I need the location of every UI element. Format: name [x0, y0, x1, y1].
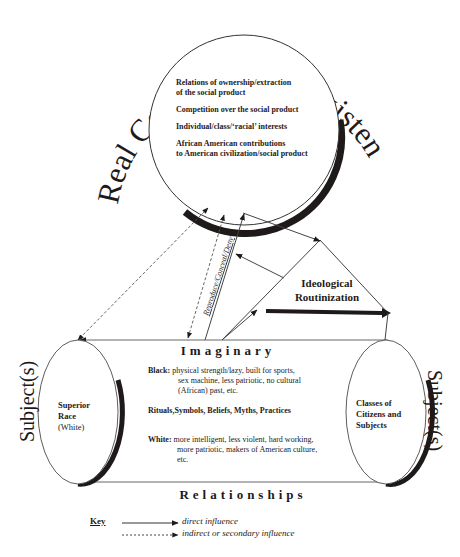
- imaginary-heading: Imaginary: [168, 343, 288, 359]
- ideo-line2: Routinization: [290, 290, 364, 304]
- key-direct-label: direct influence: [182, 516, 238, 526]
- classes-of-citizens-label: Classes of Citizens and Subjects: [356, 398, 426, 431]
- arrow-to-triangle-base: [222, 310, 257, 340]
- right-subject-side-label: Subject(s): [423, 370, 446, 451]
- left-subject-side-label: Subject(s): [16, 361, 39, 442]
- condition-item: Relations of ownership/extractionof the …: [176, 78, 336, 98]
- black-stereotypes: Black: physical strength/lazy, built for…: [148, 366, 348, 396]
- right-label-line2: Citizens and: [356, 409, 426, 420]
- dashed-arrow-circle-left-ellipse: [78, 208, 208, 340]
- left-label-line3: (White): [58, 422, 108, 433]
- right-label-line1: Classes of: [356, 398, 426, 409]
- white-stereotypes: White: more intelligent, less violent, h…: [148, 435, 348, 465]
- relationships-heading: Relationships: [168, 487, 318, 503]
- imaginary-content: Black: physical strength/lazy, built for…: [148, 366, 348, 465]
- arrow-triangle-to-reproduce: [236, 254, 284, 278]
- right-label-line3: Subjects: [356, 420, 426, 431]
- superior-race-label: Superior Race (White): [58, 400, 108, 433]
- rituals-line: Rituals,Symbols, Beliefs, Myths, Practic…: [148, 406, 348, 416]
- reproduce-conceal-deny-label: Reproduce/Conceal/Deny: [201, 235, 235, 317]
- ideo-line1: Ideological: [290, 276, 364, 290]
- ideological-routinization-label: Ideological Routinization: [290, 276, 364, 304]
- condition-item: African American contributionsto America…: [176, 139, 336, 159]
- key-indirect-label: indirect or secondary influence: [182, 528, 294, 538]
- key-title: Key: [90, 516, 106, 526]
- condition-item: Individual/class/‘racial’ interests: [176, 122, 336, 132]
- left-label-line1: Superior: [58, 400, 108, 411]
- condition-item: Competition over the social product: [176, 105, 336, 115]
- left-label-line2: Race: [58, 411, 108, 422]
- real-conditions-list: Relations of ownership/extractionof the …: [176, 78, 336, 166]
